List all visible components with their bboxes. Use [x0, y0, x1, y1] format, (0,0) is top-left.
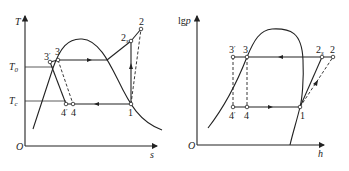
- ph-point-1: [298, 105, 302, 109]
- ph-saturation-dome: [208, 29, 303, 145]
- ts-point-2s: [129, 39, 133, 43]
- ts-label-4: 4: [71, 107, 76, 118]
- ph-y-axis-label: lgp: [178, 15, 191, 26]
- ts-label-2: 2: [139, 16, 144, 27]
- ts-label-4prime: 4′: [61, 107, 68, 118]
- ts-condense-arrow-icon: [87, 58, 92, 62]
- ts-y-axis-label: T: [15, 16, 22, 27]
- ts-throttle-line: [50, 62, 66, 104]
- ph-compress-arrow-icon: [313, 80, 318, 86]
- ts-diagram: T s O T0 Tc: [9, 16, 162, 160]
- ts-t0-label: T0: [9, 61, 19, 74]
- ts-label-1: 1: [128, 107, 133, 118]
- ph-evaporate-arrow-icon: [268, 105, 273, 109]
- ts-origin-label: O: [16, 141, 23, 152]
- ph-diagram: lgp h O 3′ 3 2s 2 1 4′ 4: [178, 15, 335, 159]
- ph-point-2: [331, 55, 335, 59]
- ph-label-1: 1: [300, 110, 305, 121]
- ph-condense-arrow-icon: [278, 55, 283, 59]
- ph-label-4prime: 4′: [229, 110, 236, 121]
- thermo-diagrams: T s O T0 Tc: [0, 0, 349, 171]
- ph-label-4: 4: [244, 110, 249, 121]
- ph-x-axis-label: h: [318, 148, 323, 159]
- ph-label-2: 2: [330, 44, 335, 55]
- ts-point-2: [139, 27, 143, 31]
- ts-label-3: 3: [55, 46, 60, 57]
- ph-point-3: [245, 55, 249, 59]
- ts-throttle-dashed: [58, 60, 73, 104]
- ts-tc-label: Tc: [9, 95, 19, 108]
- ph-label-3prime: 3′: [229, 44, 236, 55]
- ts-point-4: [71, 102, 75, 106]
- ts-x-axis-label: s: [150, 149, 154, 160]
- ph-point-3prime: [231, 55, 235, 59]
- ts-saturation-dome: [33, 39, 162, 130]
- ts-point-3: [56, 58, 60, 62]
- ts-compress-arrow-icon: [129, 63, 133, 69]
- ph-point-4: [245, 105, 249, 109]
- ts-point-1: [129, 102, 133, 106]
- ts-point-4prime: [64, 102, 68, 106]
- ts-evaporate-arrow-icon: [94, 102, 99, 106]
- ph-label-2s: 2s: [316, 44, 324, 57]
- ph-point-4prime: [231, 105, 235, 109]
- ph-label-3: 3: [243, 44, 248, 55]
- ph-origin-label: O: [188, 140, 195, 151]
- ts-label-2s: 2s: [121, 32, 129, 45]
